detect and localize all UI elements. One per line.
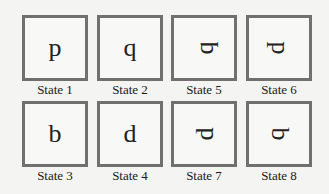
state-glyph: d — [100, 104, 160, 164]
state-glyph: b — [25, 104, 85, 164]
state-box: q — [171, 15, 237, 81]
state-label: State 6 — [246, 82, 312, 98]
state-cell-8: b State 8 — [246, 101, 312, 184]
state-box: d — [97, 101, 163, 167]
state-glyph: d — [174, 104, 234, 164]
state-box: p — [22, 15, 88, 81]
state-cell-5: q State 5 — [171, 15, 237, 98]
state-box: q — [97, 15, 163, 81]
state-label: State 2 — [97, 82, 163, 98]
state-label: State 5 — [171, 82, 237, 98]
state-glyph: q — [174, 18, 234, 78]
state-glyph: q — [100, 18, 160, 78]
state-cell-4: d State 4 — [97, 101, 163, 184]
state-cell-1: p State 1 — [22, 15, 88, 98]
state-label: State 8 — [246, 168, 312, 184]
state-glyph: p — [25, 18, 85, 78]
state-cell-2: q State 2 — [97, 15, 163, 98]
state-box: b — [246, 101, 312, 167]
state-box: b — [22, 101, 88, 167]
state-cell-7: d State 7 — [171, 101, 237, 184]
state-box: d — [171, 101, 237, 167]
state-label: State 3 — [22, 168, 88, 184]
state-label: State 7 — [171, 168, 237, 184]
state-label: State 4 — [97, 168, 163, 184]
state-glyph: b — [249, 104, 309, 164]
state-cell-3: b State 3 — [22, 101, 88, 184]
state-glyph: p — [249, 18, 309, 78]
state-label: State 1 — [22, 82, 88, 98]
state-cell-6: p State 6 — [246, 15, 312, 98]
state-box: p — [246, 15, 312, 81]
